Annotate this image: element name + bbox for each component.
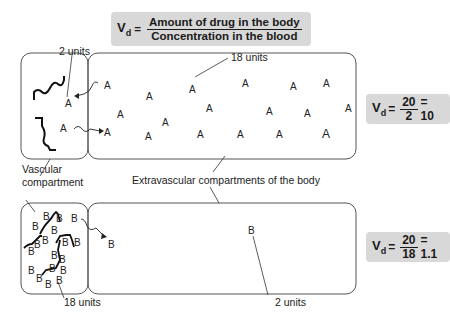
extravascular-compartments-label: Extravascular compartments of the body [132, 174, 320, 186]
molecule-b: B [42, 236, 49, 246]
molecule-a: A [104, 128, 111, 138]
molecule-b: B [32, 222, 39, 232]
molecule-b: B [43, 212, 50, 222]
molecule-b: B [71, 214, 78, 224]
top-vascular-units-label: 2 units [59, 45, 90, 57]
molecule-a: A [266, 107, 273, 117]
molecule-a: A [60, 124, 67, 134]
molecule-b: B [36, 274, 43, 284]
main-formula: Vd = Amount of drug in the body Concentr… [111, 12, 311, 46]
molecule-a: A [117, 110, 124, 120]
molecule-a: A [242, 79, 249, 89]
molecule-b: B [51, 251, 58, 261]
molecule-b: B [108, 240, 115, 250]
bottom-vd-formula: Vd = 20 18 = 1.1 [366, 232, 450, 262]
molecule-b: B [59, 255, 66, 265]
molecule-a: A [322, 128, 330, 140]
molecule-a: A [276, 130, 283, 140]
top-extravascular-units-label: 18 units [231, 51, 268, 63]
molecule-a: A [323, 79, 330, 89]
molecule-a: A [146, 92, 153, 102]
protein-chain [35, 118, 56, 150]
molecule-a: A [189, 85, 196, 95]
molecule-b: B [49, 264, 56, 274]
molecule-b: B [74, 238, 81, 248]
top-extravascular-compartment [88, 53, 356, 159]
vd-symbol: Vd [117, 20, 131, 38]
molecule-b: B [45, 280, 52, 290]
vascular-compartment-label: Vascular compartment [22, 163, 83, 189]
molecule-a: A [145, 132, 152, 142]
equals-sign: = [134, 23, 141, 35]
molecule-b: B [56, 214, 63, 224]
molecule-a: A [290, 82, 297, 92]
bottom-extravascular-units-label: 2 units [275, 296, 306, 308]
molecule-b: B [51, 226, 58, 236]
top-vascular-compartment [21, 53, 88, 159]
molecule-a: A [237, 130, 244, 140]
molecule-a: A [197, 130, 204, 140]
molecule-b: B [248, 226, 255, 236]
molecule-a: A [104, 81, 111, 91]
molecule-b: B [34, 240, 41, 250]
molecule-a: A [345, 104, 352, 114]
molecule-a: A [304, 109, 311, 119]
molecule-b: B [62, 238, 69, 248]
molecule-a: A [65, 99, 72, 109]
molecule-a: A [162, 118, 169, 128]
numerator: Amount of drug in the body [147, 16, 302, 29]
top-vd-formula: Vd = 20 2 = 10 [366, 94, 450, 124]
denominator: Concentration in the blood [149, 30, 299, 42]
molecule-b: B [28, 266, 35, 276]
bottom-extravascular-compartment [88, 203, 356, 294]
molecule-a: A [206, 104, 213, 114]
molecule-b: B [56, 276, 63, 286]
bottom-vascular-units-label: 18 units [64, 296, 101, 308]
molecule-b: B [28, 247, 35, 257]
fraction: Amount of drug in the body Concentration… [147, 16, 302, 41]
protein-chain [34, 76, 64, 100]
